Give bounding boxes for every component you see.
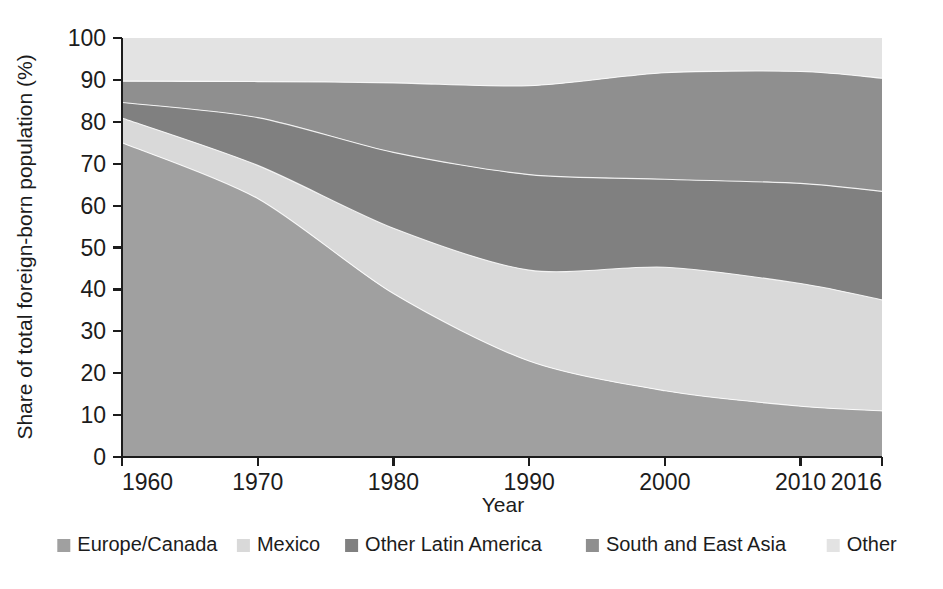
x-tick-label: 2016 <box>831 469 882 495</box>
x-axis-title: Year <box>482 493 524 516</box>
stacked-area-chart: 0102030405060708090100 19601970198019902… <box>0 0 943 589</box>
legend-label: Europe/Canada <box>77 533 218 555</box>
y-axis-title: Share of total foreign-born population (… <box>13 54 36 439</box>
x-tick-label: 1970 <box>232 469 283 495</box>
y-tick-label: 0 <box>93 444 106 470</box>
legend-label: Other Latin America <box>365 533 543 555</box>
chart-figure: 0102030405060708090100 19601970198019902… <box>0 0 943 589</box>
x-tick-group: 1960197019801990200020102016 <box>122 457 882 495</box>
y-tick-label: 100 <box>68 25 106 51</box>
y-tick-group: 0102030405060708090100 <box>68 25 122 470</box>
legend-swatch <box>586 539 599 552</box>
x-tick-label: 1990 <box>504 469 555 495</box>
x-tick-label: 1960 <box>122 469 173 495</box>
x-tick-label: 2000 <box>639 469 690 495</box>
y-tick-label: 80 <box>80 109 106 135</box>
area-series-group <box>122 38 882 457</box>
x-tick-label: 2010 <box>775 469 826 495</box>
chart-legend: Europe/CanadaMexicoOther Latin AmericaSo… <box>57 533 897 555</box>
legend-label: Mexico <box>257 533 320 555</box>
y-tick-label: 90 <box>80 67 106 93</box>
legend-swatch <box>345 539 358 552</box>
y-tick-label: 70 <box>80 151 106 177</box>
legend-swatch <box>57 539 70 552</box>
y-tick-label: 10 <box>80 402 106 428</box>
y-tick-label: 20 <box>80 360 106 386</box>
legend-swatch <box>237 539 250 552</box>
y-tick-label: 40 <box>80 276 106 302</box>
x-tick-label: 1980 <box>368 469 419 495</box>
legend-swatch <box>827 539 840 552</box>
legend-label: Other <box>847 533 897 555</box>
y-tick-label: 50 <box>80 235 106 261</box>
y-tick-label: 60 <box>80 193 106 219</box>
legend-label: South and East Asia <box>606 533 787 555</box>
y-tick-label: 30 <box>80 318 106 344</box>
